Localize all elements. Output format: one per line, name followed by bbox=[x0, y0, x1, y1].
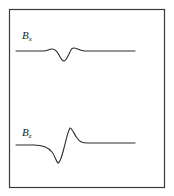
bz-trace bbox=[16, 128, 135, 163]
waveform-diagram: Bx Bz bbox=[0, 0, 174, 196]
bx-panel: Bx bbox=[16, 29, 135, 61]
bz-panel: Bz bbox=[16, 126, 135, 163]
figure-frame bbox=[10, 10, 165, 188]
bz-label: Bz bbox=[22, 126, 32, 140]
bx-label: Bx bbox=[22, 29, 33, 43]
bx-trace bbox=[16, 48, 135, 61]
